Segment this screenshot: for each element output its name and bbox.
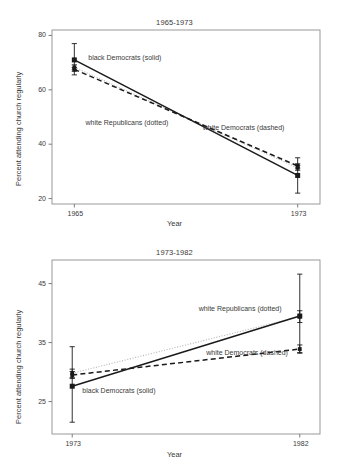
series-annotation: white Democrats (dashed) bbox=[206, 349, 288, 356]
y-tick-label: 60 bbox=[26, 86, 46, 93]
chart-plot-1 bbox=[0, 0, 349, 234]
y-tick-label: 35 bbox=[26, 339, 46, 346]
x-axis-label-1: Year bbox=[0, 219, 349, 228]
chart-title-2: 1973-1982 bbox=[0, 248, 349, 257]
series-annotation: black Democrats (solid) bbox=[82, 387, 155, 394]
series-annotation: white Republicans (dotted) bbox=[199, 305, 282, 312]
x-tick-label: 1973 bbox=[287, 210, 311, 217]
series-annotation: white Democrats (dashed) bbox=[203, 124, 285, 131]
x-tick-label: 1965 bbox=[63, 210, 87, 217]
x-tick-label: 1973 bbox=[61, 440, 85, 447]
chart-title-1: 1965-1973 bbox=[0, 18, 349, 27]
series-annotation: white Republicans (dotted) bbox=[86, 119, 169, 126]
y-tick-label: 20 bbox=[26, 195, 46, 202]
x-tick-label: 1982 bbox=[289, 440, 313, 447]
figure-church-attendance: 1965-1973 Percent attending church regul… bbox=[0, 0, 349, 467]
x-axis-label-2: Year bbox=[0, 450, 349, 459]
y-tick-label: 80 bbox=[26, 31, 46, 38]
series-annotation: black Democrats (solid) bbox=[88, 54, 161, 61]
y-tick-label: 45 bbox=[26, 280, 46, 287]
y-axis-label-2: Percent attending church regularly bbox=[14, 310, 23, 424]
chart-plot-2 bbox=[0, 234, 349, 467]
y-tick-label: 25 bbox=[26, 398, 46, 405]
chart-panel-1965-1973: 1965-1973 Percent attending church regul… bbox=[0, 0, 349, 234]
y-axis-label-1: Percent attending church regularly bbox=[14, 72, 23, 186]
y-tick-label: 40 bbox=[26, 140, 46, 147]
chart-panel-1973-1982: 1973-1982 Percent attending church regul… bbox=[0, 234, 349, 467]
